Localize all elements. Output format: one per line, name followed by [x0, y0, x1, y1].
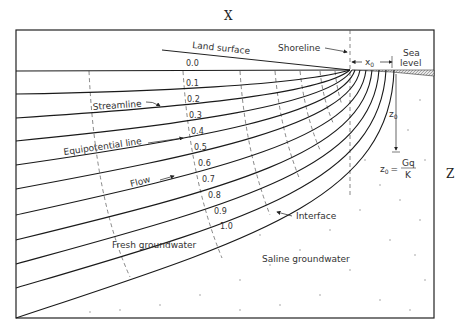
- sea-water: [352, 70, 434, 76]
- streamline-0.2: [16, 70, 350, 118]
- svg-text:Gq: Gq: [402, 158, 415, 168]
- shoreline-label: Shoreline: [278, 43, 321, 53]
- x-axis-label: X: [224, 9, 233, 23]
- value-0.6: 0.6: [198, 159, 211, 168]
- value-0.7: 0.7: [202, 175, 215, 184]
- value-0.5: 0.5: [194, 143, 207, 152]
- ghyben-herzberg-formula: z0= Gq K: [380, 158, 416, 180]
- streamline-arrow-icon: [146, 102, 160, 106]
- value-0.2: 0.2: [187, 95, 200, 104]
- z-axis-label: Z: [446, 167, 454, 181]
- value-0.0: 0.0: [186, 59, 199, 68]
- value-0.1: 0.1: [186, 79, 199, 88]
- saline-groundwater-label: Saline groundwater: [262, 254, 350, 264]
- z0-label: z0: [389, 109, 398, 120]
- x0-label: x0: [365, 57, 374, 68]
- level-label: level: [400, 58, 421, 68]
- streamline-0.0: [16, 70, 350, 71]
- equipotential-line-label: Equipotential line: [63, 136, 143, 157]
- shoreline-arrow-icon: [325, 48, 347, 52]
- svg-text:z0=: z0=: [380, 164, 398, 175]
- sea-label: Sea: [403, 48, 420, 58]
- value-0.8: 0.8: [208, 191, 221, 200]
- svg-text:K: K: [405, 170, 412, 180]
- saline-stipple: [89, 99, 425, 312]
- value-0.3: 0.3: [189, 111, 202, 120]
- value-0.9: 0.9: [214, 207, 227, 216]
- coastal-aquifer-diagram: 0.0 0.1 0.2 0.3 0.4 0.5 0.6 0.7 0.8 0.9 …: [0, 0, 463, 334]
- streamline-label: Streamline: [92, 99, 142, 112]
- streamlines: [16, 70, 394, 318]
- value-1.0: 1.0: [220, 222, 233, 231]
- equipotential-arrow-icon: [148, 138, 183, 143]
- fresh-groundwater-label: Fresh groundwater: [112, 240, 197, 250]
- interface-line: [16, 70, 394, 318]
- interface-label: Interface: [296, 211, 337, 221]
- value-0.4: 0.4: [191, 127, 204, 136]
- flow-label: Flow: [129, 174, 151, 189]
